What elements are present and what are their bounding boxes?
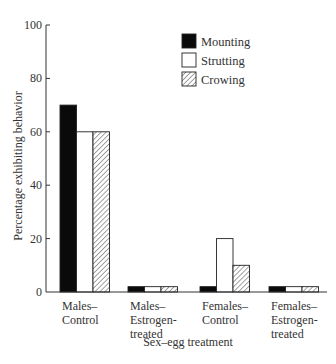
x-category-label: Control xyxy=(202,313,239,327)
bar-mounting xyxy=(60,105,77,292)
x-category-label: Males– xyxy=(62,299,98,313)
bars xyxy=(60,105,319,292)
bar-strutting xyxy=(145,287,162,292)
x-category-label: Estrogen- xyxy=(130,313,177,327)
y-axis: 020406080100 xyxy=(24,18,50,299)
bar-group xyxy=(128,287,178,292)
x-category-label: treated xyxy=(271,327,304,341)
legend-item-strutting: Strutting xyxy=(182,53,246,68)
legend-swatch xyxy=(182,53,196,67)
legend-swatch xyxy=(182,34,196,48)
bar-strutting xyxy=(77,132,94,292)
bar-group xyxy=(60,105,110,292)
y-tick-label: 100 xyxy=(24,18,42,32)
bar-crowing xyxy=(93,132,110,292)
x-category-label: Males– xyxy=(130,299,166,313)
legend-item-mounting: Mounting xyxy=(182,34,251,49)
bar-strutting xyxy=(286,287,303,292)
bar-mounting xyxy=(200,287,217,292)
bar-mounting xyxy=(269,287,286,292)
bar-crowing xyxy=(161,287,178,292)
bar-mounting xyxy=(128,287,145,292)
legend-label: Crowing xyxy=(201,73,246,87)
bar-group xyxy=(200,239,250,292)
y-tick-label: 80 xyxy=(30,71,42,85)
y-tick-label: 20 xyxy=(30,232,42,246)
bar-chart: 020406080100 Males–ControlMales–Estrogen… xyxy=(0,0,336,364)
x-category-label: Control xyxy=(62,313,99,327)
x-category-label: Females– xyxy=(271,299,318,313)
legend-swatch xyxy=(182,72,196,86)
legend-item-crowing: Crowing xyxy=(182,72,246,87)
x-category-label: Estrogen- xyxy=(271,313,318,327)
x-category-label: Females– xyxy=(202,299,249,313)
y-tick-label: 60 xyxy=(30,125,42,139)
bar-crowing xyxy=(302,287,319,292)
legend-label: Strutting xyxy=(201,54,246,68)
bar-group xyxy=(269,287,319,292)
legend: MountingStruttingCrowing xyxy=(182,34,251,87)
y-tick-label: 40 xyxy=(30,178,42,192)
y-axis-title: Percentage exhibiting behavior xyxy=(11,91,25,240)
bar-crowing xyxy=(233,265,250,292)
x-axis-title: Sex–egg treatment xyxy=(143,335,233,349)
y-tick-label: 0 xyxy=(36,285,42,299)
x-axis: Males–ControlMales–Estrogen-treatedFemal… xyxy=(46,292,327,341)
bar-strutting xyxy=(217,239,234,292)
legend-label: Mounting xyxy=(201,35,251,49)
